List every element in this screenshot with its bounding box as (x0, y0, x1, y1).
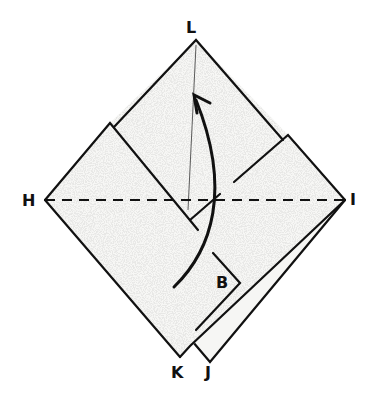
label-k: K (171, 365, 183, 381)
label-h: H (22, 193, 35, 209)
label-l: L (186, 20, 196, 36)
origami-diagram (0, 0, 372, 405)
label-i: I (350, 192, 356, 208)
label-b: B (216, 275, 228, 291)
label-j: J (205, 365, 211, 381)
